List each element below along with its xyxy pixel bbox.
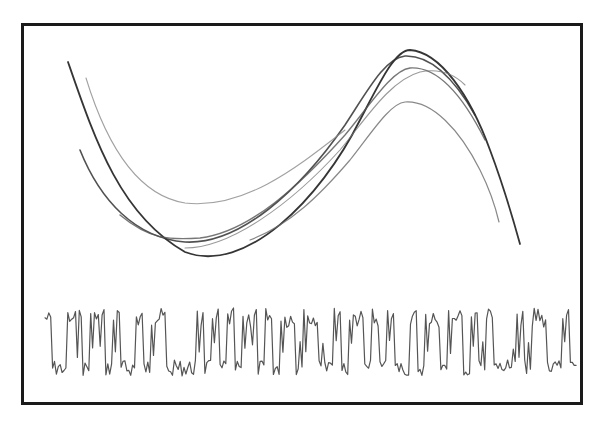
attractor-phase-portrait	[68, 50, 520, 256]
signal-polyline	[45, 308, 576, 376]
time-series-trace	[45, 308, 576, 376]
figure-canvas	[0, 0, 603, 422]
trajectory-inner-band	[120, 68, 485, 239]
trajectory-inner-band-2	[185, 71, 465, 248]
plot-svg	[0, 0, 603, 422]
trajectory-upper-light	[86, 78, 345, 204]
